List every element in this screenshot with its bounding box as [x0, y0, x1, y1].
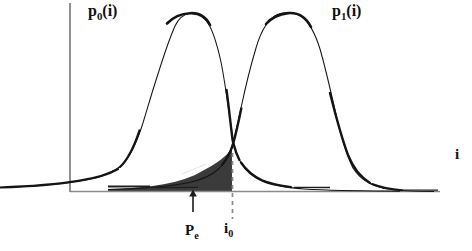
error-probability-label: Pe: [185, 222, 199, 241]
i0-subscript: 0: [228, 228, 233, 239]
x-axis-label: i: [455, 146, 459, 163]
probability-density-figure: [0, 0, 472, 251]
pe-base: P: [185, 222, 194, 238]
p0-argument: (i): [102, 2, 117, 19]
figure-background: [0, 0, 472, 251]
p1-argument: (i): [346, 2, 361, 19]
pe-subscript: e: [194, 230, 199, 241]
threshold-label: i0: [224, 220, 233, 239]
p0-base: p: [88, 2, 97, 19]
p1-curve-label: p1(i): [332, 2, 361, 22]
p0-curve-label: p0(i): [88, 2, 117, 22]
p1-base: p: [332, 2, 341, 19]
